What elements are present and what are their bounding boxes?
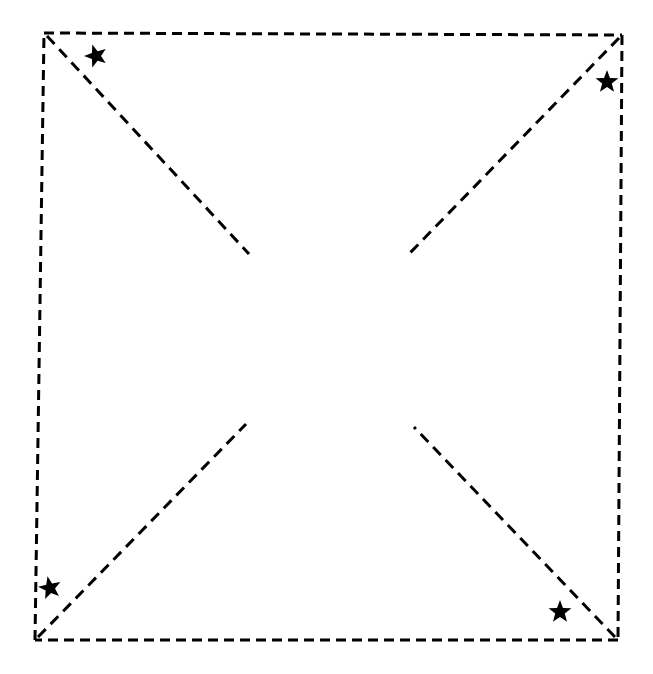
figure-root xyxy=(0,0,653,674)
dashed-square-diagram xyxy=(0,0,653,674)
figure-background xyxy=(0,0,653,674)
